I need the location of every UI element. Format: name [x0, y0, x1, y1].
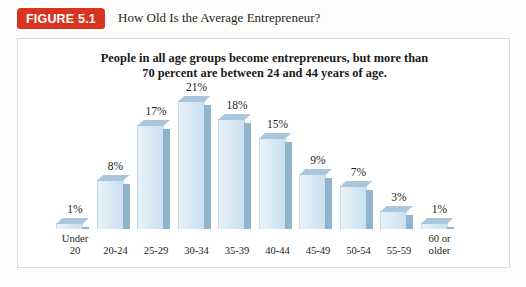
x-axis-label: 20-24: [94, 245, 138, 257]
bar-side-face: [204, 105, 211, 229]
x-axis-label-line: 50-54: [337, 245, 381, 257]
bar: [178, 101, 216, 229]
chart-frame: People in all age groups become entrepre…: [17, 38, 510, 268]
bar-side-face: [285, 142, 292, 229]
bar-value-label: 9%: [299, 154, 337, 166]
bar-value-label: 18%: [218, 99, 256, 111]
bar-top-face: [380, 206, 413, 212]
bar: [299, 174, 337, 229]
bar-top-face: [421, 218, 454, 224]
x-axis-label: 60 orolder: [418, 233, 462, 257]
bar-front-face: [97, 180, 124, 229]
bar-side-face: [366, 190, 373, 229]
x-axis-label-line: 60 or: [418, 233, 462, 245]
figure-number-badge: FIGURE 5.1: [17, 8, 105, 29]
bar: [259, 138, 297, 229]
bar-front-face: [299, 174, 326, 229]
bar-top-face: [97, 175, 130, 181]
bar-front-face: [218, 119, 245, 229]
figure-title: How Old Is the Average Entrepreneur?: [118, 10, 320, 26]
bar-value-label: 8%: [97, 160, 135, 172]
bar-value-label: 1%: [56, 203, 94, 215]
x-axis-label-line: 20: [53, 245, 97, 257]
bar-side-face: [406, 215, 413, 229]
bar-top-face: [178, 96, 211, 102]
bar-front-face: [178, 101, 205, 229]
bar-side-face: [82, 227, 89, 229]
bar-front-face: [340, 186, 367, 229]
bar: [97, 180, 135, 229]
x-axis-label-line: 30-34: [175, 245, 219, 257]
bar-side-face: [123, 184, 130, 229]
bar-side-face: [325, 178, 332, 229]
x-axis-label: 30-34: [175, 245, 219, 257]
bar-side-face: [244, 123, 251, 229]
bar-top-face: [218, 114, 251, 120]
x-axis-label-line: 35-39: [215, 245, 259, 257]
x-axis-label: 25-29: [134, 245, 178, 257]
x-axis-label: 50-54: [337, 245, 381, 257]
x-axis-label: 35-39: [215, 245, 259, 257]
bar-front-face: [380, 211, 407, 229]
bar-chart-plot: 1%Under208%20-2417%25-2921%30-3418%35-39…: [18, 39, 511, 269]
x-axis-label-line: 45-49: [296, 245, 340, 257]
x-axis-label: 40-44: [256, 245, 300, 257]
bar-value-label: 15%: [259, 118, 297, 130]
bar: [137, 125, 175, 229]
x-axis-label: Under20: [53, 233, 97, 257]
figure-header: FIGURE 5.1 How Old Is the Average Entrep…: [0, 0, 526, 38]
bar-top-face: [259, 133, 292, 139]
bar: [421, 223, 459, 229]
bar-top-face: [137, 120, 170, 126]
bar-value-label: 3%: [380, 191, 418, 203]
x-axis-label-line: 55-59: [377, 245, 421, 257]
x-axis-label-line: 25-29: [134, 245, 178, 257]
bar-side-face: [447, 227, 454, 229]
x-axis-label-line: 20-24: [94, 245, 138, 257]
bar: [56, 223, 94, 229]
x-axis-label: 45-49: [296, 245, 340, 257]
bar-value-label: 1%: [421, 203, 459, 215]
bar-value-label: 21%: [178, 81, 216, 93]
x-axis-label: 55-59: [377, 245, 421, 257]
bar-value-label: 7%: [340, 166, 378, 178]
bar-front-face: [259, 138, 286, 229]
bar-top-face: [299, 169, 332, 175]
bar-top-face: [340, 181, 373, 187]
bar-value-label: 17%: [137, 105, 175, 117]
bar: [380, 211, 418, 229]
bar-front-face: [137, 125, 164, 229]
x-axis-label-line: Under: [53, 233, 97, 245]
bar-side-face: [163, 129, 170, 229]
x-axis-label-line: 40-44: [256, 245, 300, 257]
bar-top-face: [56, 218, 89, 224]
bar: [218, 119, 256, 229]
bar: [340, 186, 378, 229]
x-axis-label-line: older: [418, 245, 462, 257]
